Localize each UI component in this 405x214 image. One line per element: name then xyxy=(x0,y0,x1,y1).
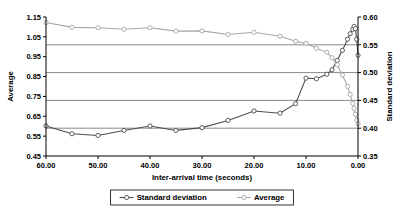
y2-tick-label: 0.45 xyxy=(363,96,378,105)
data-point-marker xyxy=(304,76,308,80)
data-point-marker xyxy=(278,34,282,38)
data-point-marker xyxy=(353,112,357,116)
data-point-marker xyxy=(325,50,329,54)
x-tick-label: 30.00 xyxy=(193,161,212,170)
data-point-marker xyxy=(174,128,178,132)
legend-label: Standard deviation xyxy=(137,193,207,202)
data-point-marker xyxy=(252,109,256,113)
data-point-marker xyxy=(325,72,329,76)
data-point-marker xyxy=(330,68,334,72)
dual-axis-line-chart: 0.450.550.650.750.850.951.051.150.350.40… xyxy=(0,0,405,214)
data-point-marker xyxy=(335,58,339,62)
data-point-marker xyxy=(70,25,74,29)
y2-tick-label: 0.55 xyxy=(363,41,378,50)
data-point-marker xyxy=(174,29,178,33)
data-point-marker xyxy=(353,27,357,31)
y-axis-ticks: 0.450.550.650.750.850.951.051.15 xyxy=(26,13,46,161)
x-axis-title: Inter-arrival time (seconds) xyxy=(152,173,252,182)
y-tick-label: 0.95 xyxy=(26,52,41,61)
chart-legend: Standard deviationAverage xyxy=(111,190,294,205)
data-point-marker xyxy=(351,101,355,105)
data-point-marker xyxy=(148,124,152,128)
data-point-marker xyxy=(294,102,298,106)
data-point-marker xyxy=(252,30,256,34)
data-point-marker xyxy=(70,132,74,136)
x-tick-label: 20.00 xyxy=(245,161,264,170)
y2-tick-label: 0.35 xyxy=(363,152,378,161)
data-point-marker xyxy=(226,32,230,36)
data-point-marker xyxy=(122,128,126,132)
data-point-marker xyxy=(348,92,352,96)
y2-axis-title: Standard deviation xyxy=(385,51,394,121)
x-axis-ticks: 60.0050.0040.0030.0020.0010.000.00 xyxy=(37,156,366,170)
y2-axis-ticks: 0.350.400.450.500.550.60 xyxy=(358,13,378,161)
data-point-marker xyxy=(330,56,334,60)
y-tick-label: 0.85 xyxy=(26,72,41,81)
legend-marker xyxy=(125,195,129,199)
data-point-marker xyxy=(346,37,350,41)
x-tick-label: 0.00 xyxy=(351,161,366,170)
data-point-marker xyxy=(314,46,318,50)
data-point-marker xyxy=(340,73,344,77)
data-point-marker xyxy=(314,77,318,81)
data-point-marker xyxy=(148,26,152,30)
data-point-marker xyxy=(340,48,344,52)
y-tick-label: 1.15 xyxy=(26,13,41,22)
y-tick-label: 1.05 xyxy=(26,33,41,42)
data-point-marker xyxy=(294,39,298,43)
x-tick-label: 50.00 xyxy=(89,161,108,170)
x-tick-label: 60.00 xyxy=(37,161,56,170)
data-point-marker xyxy=(96,26,100,30)
data-point-marker xyxy=(352,106,356,110)
y-tick-label: 0.55 xyxy=(26,132,41,141)
legend-marker xyxy=(242,195,246,199)
data-point-marker xyxy=(226,118,230,122)
y2-tick-label: 0.40 xyxy=(363,124,378,133)
data-point-marker xyxy=(348,32,352,36)
data-point-marker xyxy=(304,41,308,45)
data-point-marker xyxy=(278,111,282,115)
chart-container: 0.450.550.650.750.850.951.051.150.350.40… xyxy=(0,0,405,214)
legend-label: Average xyxy=(254,193,285,202)
y-tick-label: 0.65 xyxy=(26,112,41,121)
x-tick-label: 10.00 xyxy=(297,161,316,170)
y-axis-title: Average xyxy=(6,71,15,102)
data-point-marker xyxy=(335,63,339,67)
data-point-marker xyxy=(122,27,126,31)
data-point-marker xyxy=(200,126,204,130)
data-point-marker xyxy=(346,84,350,88)
data-point-marker xyxy=(200,29,204,33)
y2-tick-label: 0.50 xyxy=(363,68,378,77)
y2-tick-label: 0.60 xyxy=(363,13,378,22)
data-point-marker xyxy=(96,133,100,137)
y-tick-label: 0.75 xyxy=(26,92,41,101)
x-tick-label: 40.00 xyxy=(141,161,160,170)
y-tick-label: 0.45 xyxy=(26,152,41,161)
